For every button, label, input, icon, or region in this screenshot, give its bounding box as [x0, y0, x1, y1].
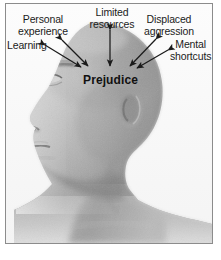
label-mental-shortcuts: Mental shortcuts — [170, 39, 211, 62]
label-mental-shortcuts-line1: Mental — [170, 39, 211, 51]
label-limited-resources-line1: Limited — [82, 7, 142, 19]
label-mental-shortcuts-line2: shortcuts — [170, 51, 211, 63]
label-personal-experience-line1: Personal — [18, 14, 68, 26]
label-personal-experience-line2: experience — [18, 26, 68, 38]
label-prejudice: Prejudice — [0, 73, 221, 87]
label-displaced-aggression: Displaced aggression — [144, 14, 194, 37]
label-learning: Learning — [7, 40, 47, 52]
label-displaced-aggression-line1: Displaced — [144, 14, 194, 26]
label-displaced-aggression-line2: aggression — [144, 26, 194, 38]
label-limited-resources: Limited resources — [82, 7, 142, 30]
label-limited-resources-line2: resources — [82, 19, 142, 31]
label-personal-experience: Personal experience — [18, 14, 68, 37]
prejudice-diagram-figure: Personal experience Learning Limited res… — [0, 0, 221, 260]
label-learning-line1: Learning — [7, 40, 47, 52]
